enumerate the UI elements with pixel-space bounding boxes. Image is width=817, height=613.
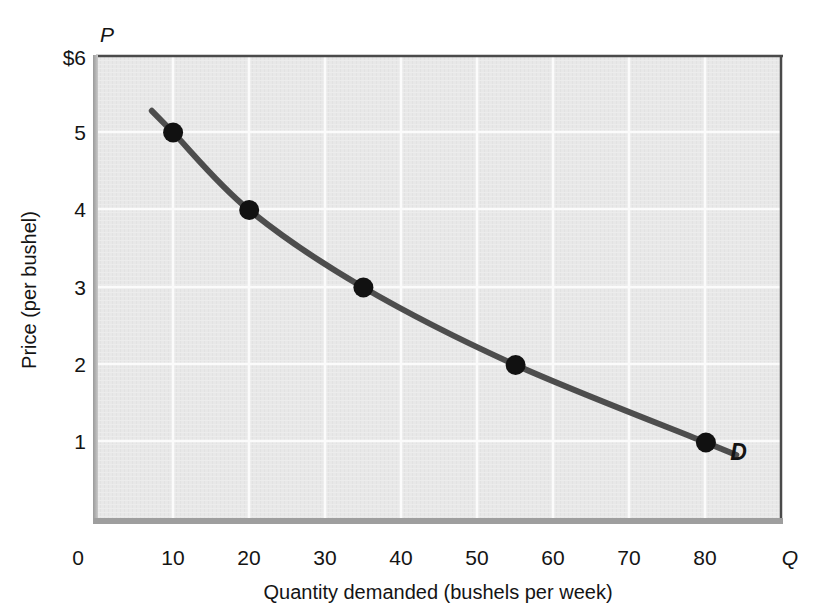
x-tick-30: 30 <box>313 546 336 569</box>
x-tick-80: 80 <box>693 546 716 569</box>
data-point <box>696 433 716 453</box>
x-tick-0: 0 <box>72 546 84 569</box>
y-tick-4: 4 <box>74 198 86 221</box>
data-point <box>506 355 526 375</box>
x-axis-variable-label: Q <box>782 546 798 569</box>
y-axis-tick-labels: $6 5 4 3 2 1 <box>63 46 87 453</box>
demand-curve-figure: $6 5 4 3 2 1 0 10 20 30 40 50 60 70 80 P… <box>0 0 817 613</box>
y-axis-variable-label: P <box>100 23 114 46</box>
y-tick-5: 5 <box>74 121 86 144</box>
demand-curve-label: D <box>730 439 747 465</box>
x-tick-40: 40 <box>389 546 412 569</box>
y-tick-1: 1 <box>74 430 86 453</box>
demand-curve-chart: $6 5 4 3 2 1 0 10 20 30 40 50 60 70 80 P… <box>0 0 817 613</box>
y-axis-spine <box>93 55 98 521</box>
x-axis-spine <box>93 518 783 524</box>
y-tick-6: $6 <box>63 46 86 69</box>
x-axis-title: Quantity demanded (bushels per week) <box>263 581 612 603</box>
data-point <box>163 123 183 143</box>
y-axis-title: Price (per bushel) <box>18 211 40 369</box>
data-point <box>353 278 373 298</box>
x-tick-10: 10 <box>161 546 184 569</box>
y-tick-3: 3 <box>74 276 86 299</box>
x-tick-70: 70 <box>617 546 640 569</box>
x-axis-tick-labels: 0 10 20 30 40 50 60 70 80 <box>72 546 717 569</box>
data-point <box>239 200 259 220</box>
x-tick-60: 60 <box>541 546 564 569</box>
x-tick-20: 20 <box>237 546 260 569</box>
x-tick-50: 50 <box>465 546 488 569</box>
y-tick-2: 2 <box>74 353 86 376</box>
